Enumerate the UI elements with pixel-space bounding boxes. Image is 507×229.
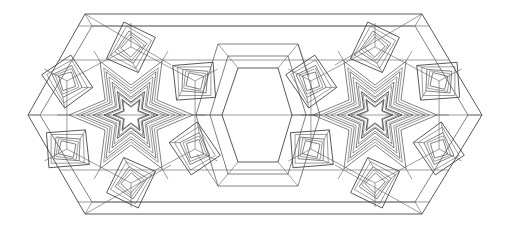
background [0,0,507,229]
figure-root [0,0,507,229]
geometric-pattern-canvas [0,0,507,229]
